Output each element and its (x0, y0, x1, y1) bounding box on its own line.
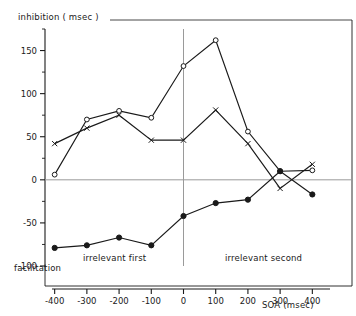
y-tick-label: 0 (32, 175, 37, 185)
marker-circle-open (181, 64, 186, 69)
x-tick-label: 100 (208, 296, 224, 306)
marker-circle-open (52, 172, 57, 177)
y-tick-label: 100 (21, 89, 37, 99)
marker-circle-open (117, 108, 122, 113)
axis-label-soa: SOA (msec) (262, 300, 314, 310)
marker-circle-open (246, 129, 251, 134)
marker-circle-filled (310, 192, 315, 197)
y-tick-label: 150 (21, 46, 37, 56)
annotation-irrelevant-second: irrelevant second (225, 253, 302, 263)
y-tick-label: -50 (23, 218, 37, 228)
x-tick-label: 200 (240, 296, 256, 306)
x-tick-label: -300 (77, 296, 96, 306)
marker-circle-open (84, 117, 89, 122)
marker-circle-open (310, 168, 315, 173)
annotation-irrelevant-first: irrelevant first (83, 253, 146, 263)
marker-circle-filled (84, 243, 89, 248)
marker-circle-filled (213, 200, 218, 205)
marker-circle-open (213, 38, 218, 43)
x-tick-label: -100 (142, 296, 161, 306)
marker-circle-filled (278, 169, 283, 174)
x-tick-label: -400 (45, 296, 64, 306)
axis-label-inhibition: inhibition ( msec ) (18, 12, 99, 22)
marker-circle-filled (181, 213, 186, 218)
x-tick-label: -200 (109, 296, 128, 306)
x-tick-label: 0 (181, 296, 186, 306)
marker-circle-filled (52, 245, 57, 250)
chart-figure: 150100500-50-100-400-300-200-10001002003… (0, 0, 356, 316)
marker-circle-filled (149, 243, 154, 248)
marker-circle-filled (116, 235, 121, 240)
axis-label-facilitation: facilitation (14, 263, 61, 273)
y-tick-label: 50 (26, 132, 37, 142)
marker-circle-open (149, 115, 154, 120)
marker-circle-filled (245, 197, 250, 202)
